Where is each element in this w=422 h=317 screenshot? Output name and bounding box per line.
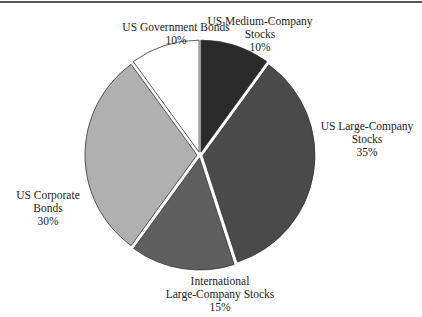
label-text: International: [150, 275, 290, 288]
label-intl-stocks: International Large-Company Stocks 15%: [150, 275, 290, 314]
label-medium-stocks: US Medium-Company Stocks 10%: [200, 15, 320, 54]
label-text: Bonds: [8, 202, 88, 215]
label-text: Large-Company Stocks: [150, 288, 290, 301]
label-text: US Medium-Company: [200, 15, 320, 28]
label-pct: 35%: [312, 146, 422, 159]
label-pct: 15%: [150, 301, 290, 314]
label-large-stocks: US Large-Company Stocks 35%: [312, 120, 422, 159]
label-pct: 10%: [200, 41, 320, 54]
label-corp-bonds: US Corporate Bonds 30%: [8, 189, 88, 228]
label-text: US Large-Company: [312, 120, 422, 133]
label-text: US Corporate: [8, 189, 88, 202]
label-pct: 30%: [8, 215, 88, 228]
label-text: Stocks: [200, 28, 320, 41]
label-text: Stocks: [312, 133, 422, 146]
